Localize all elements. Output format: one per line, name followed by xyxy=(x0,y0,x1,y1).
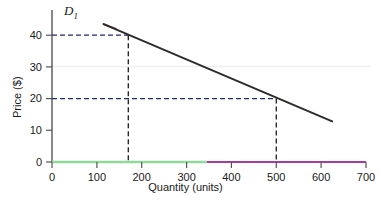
demand-curve-label: D1 xyxy=(64,4,78,21)
y-tick-label-40: 40 xyxy=(16,30,42,41)
demand-curve-label-subscript: 1 xyxy=(73,11,78,21)
y-axis-title: Price ($) xyxy=(12,76,23,118)
y-tick-label-0: 0 xyxy=(16,157,42,168)
x-axis-title: Quantity (units) xyxy=(0,182,371,193)
demand-curve-d1[interactable] xyxy=(104,24,333,121)
y-tick-label-10: 10 xyxy=(16,125,42,136)
demand-curve-label-letter: D xyxy=(64,3,73,18)
y-tick-label-30: 30 xyxy=(16,62,42,73)
